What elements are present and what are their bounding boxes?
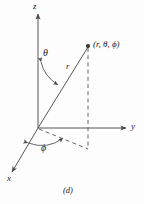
radius-label: r bbox=[66, 62, 69, 71]
radius-line bbox=[38, 47, 88, 128]
x-axis-label: x bbox=[7, 174, 11, 183]
z-axis-label: z bbox=[33, 2, 37, 11]
theta-arc-arrow bbox=[41, 62, 58, 85]
theta-angle-label: θ bbox=[43, 48, 48, 58]
point-coordinates-label: (r, θ, ϕ) bbox=[93, 40, 120, 49]
projection-dashed-line bbox=[39, 129, 88, 149]
diagram-canvas bbox=[0, 0, 144, 204]
point-marker-dot bbox=[86, 44, 90, 48]
phi-angle-label: ϕ bbox=[41, 143, 46, 153]
y-axis-label: y bbox=[131, 122, 135, 131]
x-axis-line bbox=[12, 128, 38, 172]
figure-caption: (d) bbox=[63, 186, 73, 195]
spherical-coordinates-figure: z y x θ ϕ r (r, θ, ϕ) (d) bbox=[0, 0, 144, 204]
